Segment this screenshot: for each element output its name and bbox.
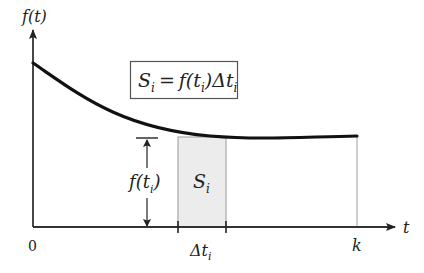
riemann-strip-diagram: f(t) t 0 k Si=f(ti)Δti Si f(ti) Δti	[0, 0, 424, 273]
k-label: k	[352, 236, 362, 255]
y-axis-label: f(t)	[21, 7, 47, 26]
height-label: f(ti)	[127, 171, 160, 196]
width-label: Δti	[189, 241, 212, 263]
origin-label: 0	[28, 238, 37, 254]
x-axis-label: t	[403, 218, 410, 237]
